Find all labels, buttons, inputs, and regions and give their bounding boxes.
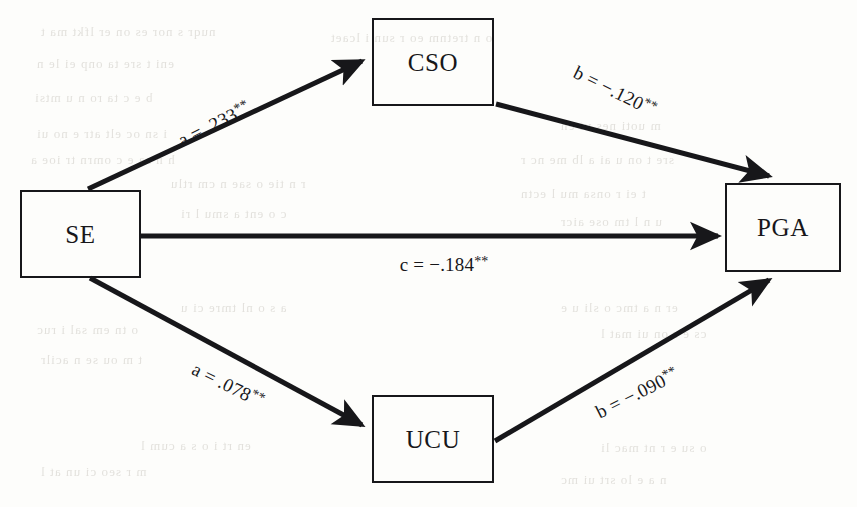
node-box-cso: CSO <box>372 18 494 106</box>
path-diagram-figure: nuqr s nor es on er lfkt ma to n tretnm … <box>0 0 857 507</box>
arrow-cso-to-pga <box>496 104 769 176</box>
arrow-se-to-ucu <box>90 278 362 425</box>
path-label-c-se-pga: c = −.184** <box>400 254 488 277</box>
node-box-pga: PGA <box>725 183 841 272</box>
coefficient-text: c = −.184 <box>400 254 474 275</box>
node-label-cso: CSO <box>408 50 458 75</box>
arrow-ucu-to-pga <box>495 280 769 441</box>
node-box-se: SE <box>20 190 141 278</box>
node-label-se: SE <box>65 222 95 247</box>
node-label-ucu: UCU <box>406 427 461 452</box>
node-label-pga: PGA <box>757 215 809 240</box>
significance-marker: ** <box>474 254 488 269</box>
node-box-ucu: UCU <box>372 395 494 483</box>
